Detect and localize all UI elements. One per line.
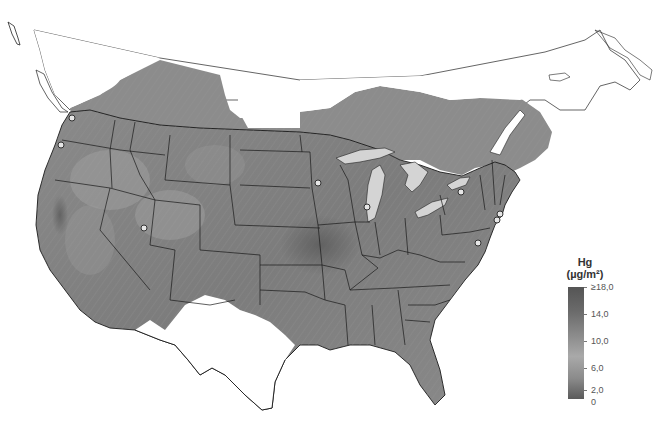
legend-label-min: 0 xyxy=(591,397,596,407)
map-legend: Hg (µg/m²) ≥18,0 14,0 10,0 6,0 2,0 0 xyxy=(560,256,660,406)
legend-tick xyxy=(584,368,587,369)
legend-title-unit: (µg/m²) xyxy=(562,268,608,280)
legend-color-bar xyxy=(568,287,584,399)
legend-label: 2,0 xyxy=(591,385,604,395)
legend-tick xyxy=(584,341,587,342)
legend-label: 10,0 xyxy=(591,336,609,346)
legend-title: Hg (µg/m²) xyxy=(562,256,608,280)
legend-tick xyxy=(584,390,587,391)
legend-label: 6,0 xyxy=(591,363,604,373)
legend-label-max: ≥18,0 xyxy=(591,282,613,292)
legend-title-element: Hg xyxy=(562,256,608,268)
legend-tick xyxy=(584,314,587,315)
site-marker xyxy=(458,189,464,195)
site-marker xyxy=(315,180,321,186)
site-marker xyxy=(69,115,75,121)
site-marker xyxy=(141,225,147,231)
site-marker xyxy=(494,217,500,223)
site-marker xyxy=(58,142,64,148)
site-marker xyxy=(364,204,370,210)
legend-tick xyxy=(584,287,587,288)
site-marker xyxy=(475,240,481,246)
legend-label: 14,0 xyxy=(591,309,609,319)
site-marker xyxy=(497,211,503,217)
